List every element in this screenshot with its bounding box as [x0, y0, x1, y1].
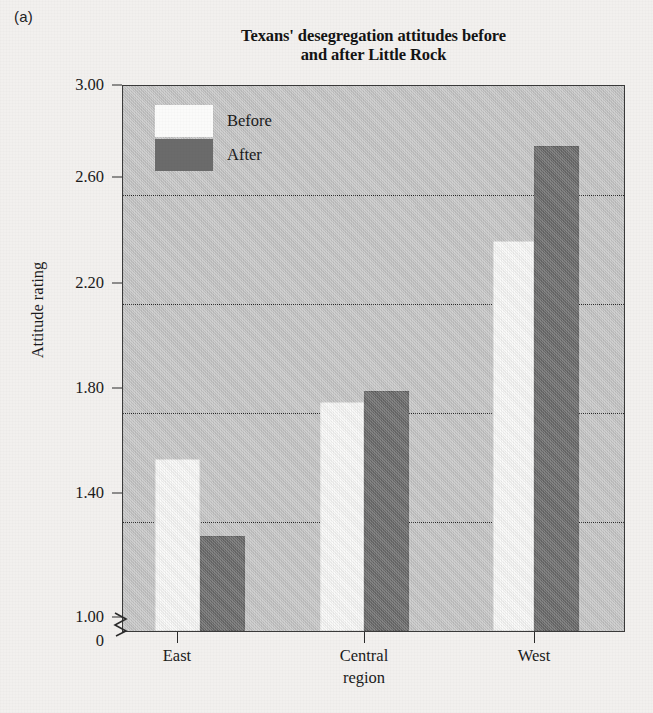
x-tick-label-east: East [107, 646, 247, 666]
legend-item-before: Before [155, 104, 272, 138]
bar-before-west [493, 241, 534, 631]
y-tick-label-2-60: 2.60 [75, 167, 104, 187]
y-tick-mark-2-60 [112, 177, 122, 178]
x-tick-mark-west [534, 632, 535, 643]
chart-title-line-2: and after Little Rock [122, 45, 625, 64]
legend-label-after: After [227, 145, 262, 165]
bar-after-central [364, 391, 409, 631]
x-tick-mark-central [364, 632, 365, 643]
legend: Before After [155, 104, 272, 172]
plot-area: Before After [122, 85, 625, 632]
y-axis-title: Attitude rating [28, 210, 48, 410]
legend-label-before: Before [227, 111, 272, 131]
x-tick-label-central: Central [294, 646, 434, 666]
y-tick-label-2-20: 2.20 [75, 273, 104, 293]
x-tick-label-west: West [464, 646, 604, 666]
chart-title: Texans' desegregation attitudes before a… [122, 26, 625, 65]
y-tick-mark-2-20 [112, 283, 122, 284]
y-tick-mark-1-80 [112, 388, 122, 389]
bar-before-central [320, 402, 364, 631]
bar-after-west [534, 146, 579, 631]
y-tick-label-1-00: 1.00 [75, 607, 104, 627]
x-axis-title: region [294, 668, 434, 688]
y-axis-break-icon [113, 610, 129, 638]
y-tick-mark-3-00 [112, 85, 122, 86]
legend-swatch-before-icon [155, 105, 213, 137]
bar-before-east [155, 459, 200, 631]
y-tick-label-3-00: 3.00 [75, 75, 104, 95]
y-tick-label-1-40: 1.40 [75, 483, 104, 503]
x-tick-mark-east [177, 632, 178, 643]
legend-swatch-after-icon [155, 139, 213, 171]
y-tick-label-1-80: 1.80 [75, 378, 104, 398]
y-tick-mark-1-40 [112, 493, 122, 494]
legend-item-after: After [155, 138, 272, 172]
chart-title-line-1: Texans' desegregation attitudes before [122, 26, 625, 45]
y-tick-label-baseline-zero: 0 [96, 631, 104, 651]
bar-after-east [200, 536, 245, 631]
